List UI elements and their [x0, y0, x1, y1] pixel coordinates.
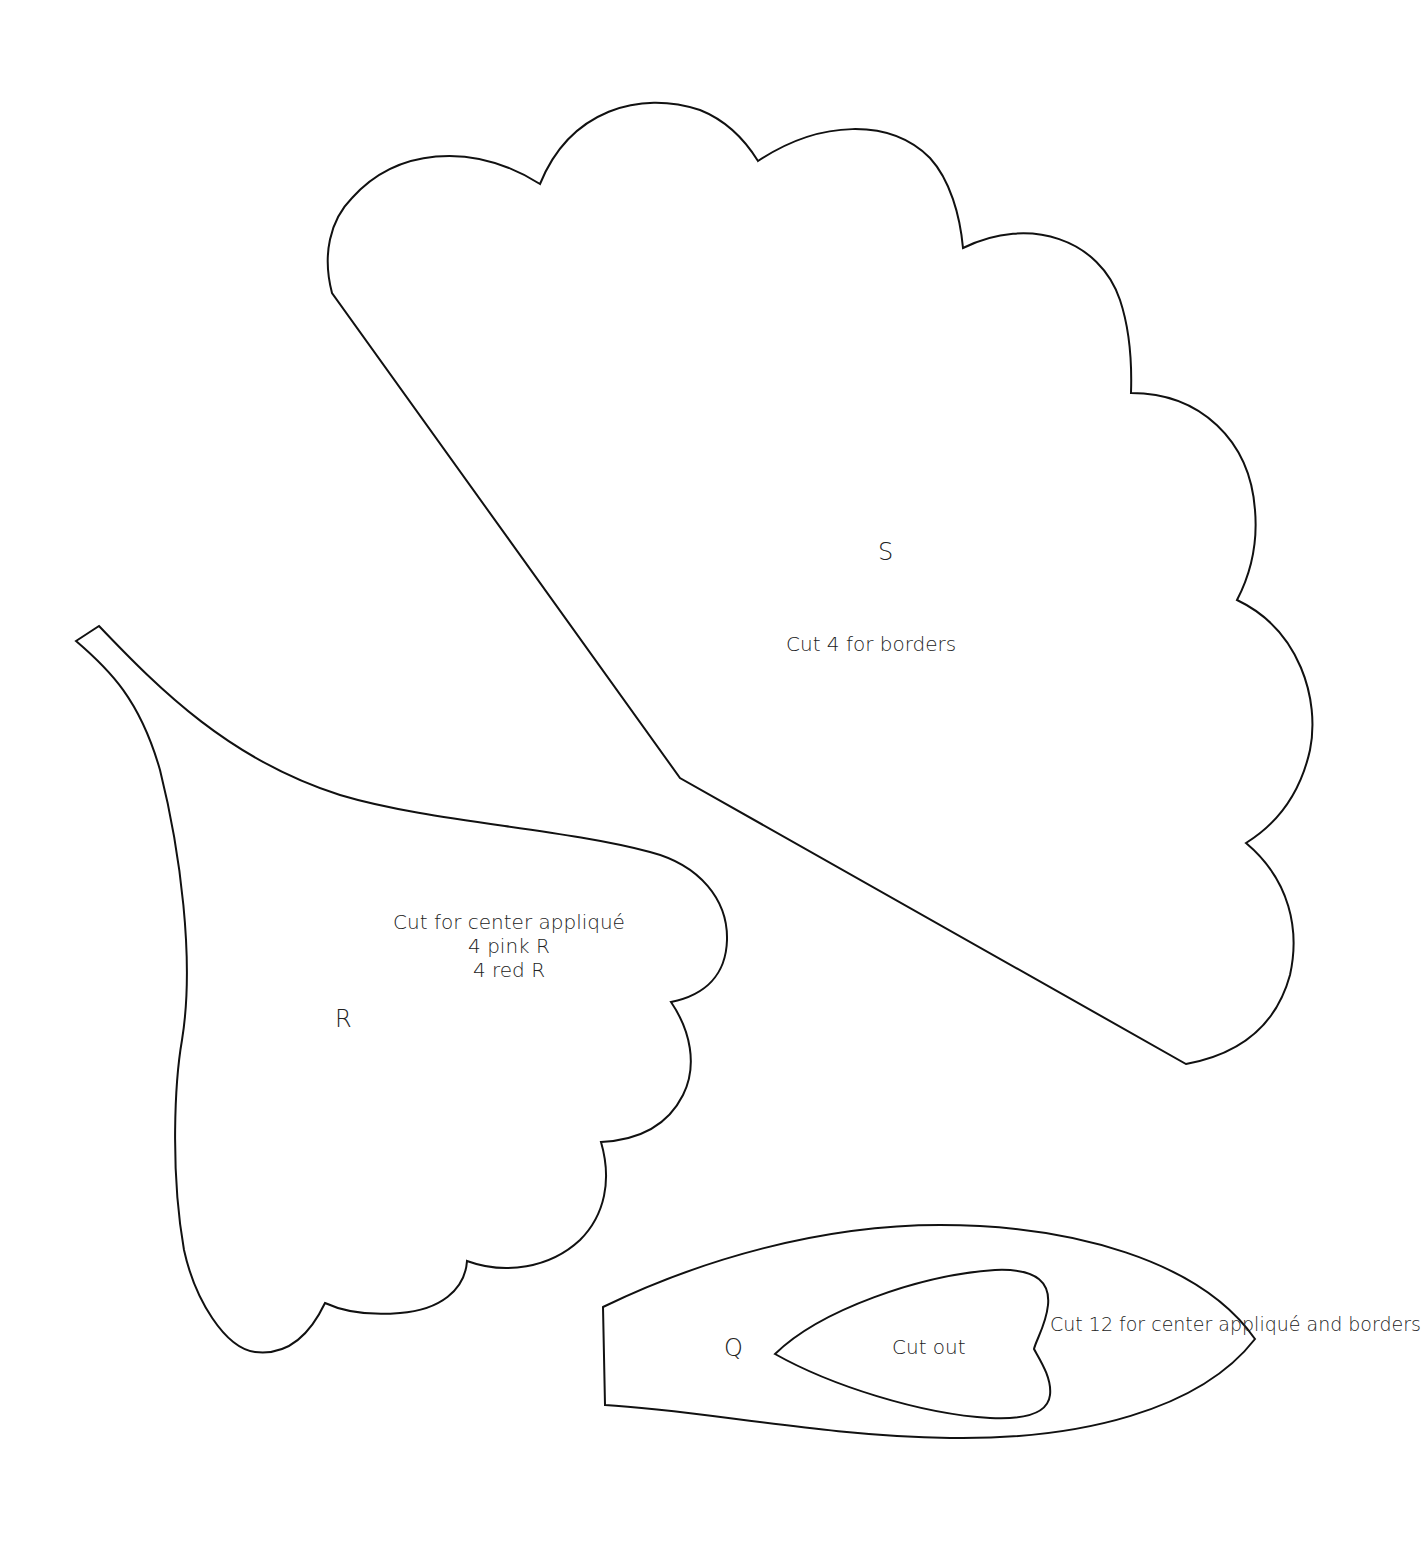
piece-r-instruction-line: 4 pink R [380, 934, 638, 958]
piece-s-letter: S [878, 538, 893, 567]
piece-r-instruction-line: 4 red R [380, 958, 638, 982]
piece-q-cutout-label: Cut out [892, 1335, 966, 1359]
piece-q-instruction-line: borders [1348, 1313, 1421, 1335]
piece-r-instruction-line: Cut for center appliqué [380, 910, 638, 934]
piece-s-instructions: Cut 4 for borders [786, 632, 956, 656]
piece-q-letter: Q [724, 1334, 743, 1363]
piece-r-letter: R [335, 1005, 352, 1034]
piece-r-instructions: Cut for center appliqué 4 pink R 4 red R [380, 910, 638, 982]
piece-q-instruction-line: appliqué and [1218, 1313, 1342, 1335]
piece-s-instruction-line: Cut 4 for borders [786, 632, 956, 656]
piece-q-instructions: Cut 12 for center appliqué and borders [1050, 1313, 1240, 1336]
piece-r-outline [76, 626, 727, 1352]
piece-q-instruction-line: Cut 12 for center [1050, 1313, 1212, 1335]
